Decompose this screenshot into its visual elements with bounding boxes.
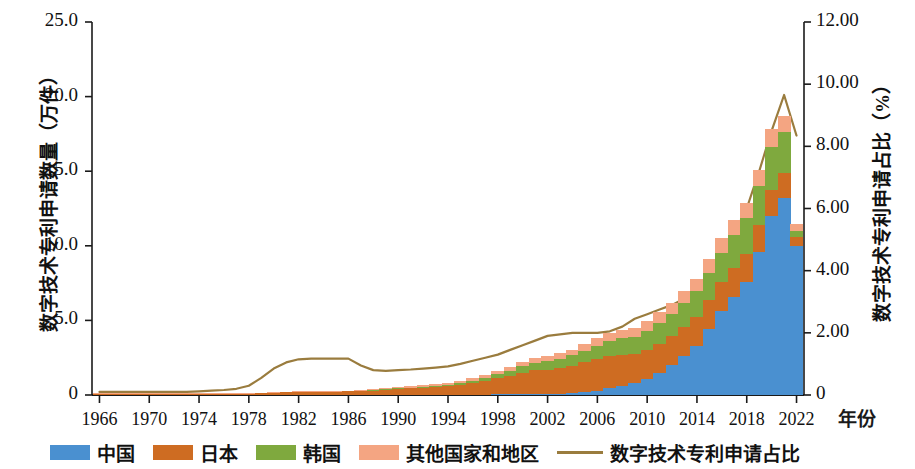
bar-segment-others (653, 312, 666, 322)
bar-segment-japan (379, 390, 392, 395)
bar-segment-japan (118, 394, 131, 395)
y-axis-right-tick-label: 2.00 (816, 320, 886, 342)
bar-segment-japan (653, 344, 666, 373)
bar-segment-korea (616, 338, 629, 354)
bar-segment-japan (193, 394, 206, 395)
stacked-bar (143, 393, 156, 395)
stacked-bar (578, 344, 591, 395)
stacked-bar (703, 259, 716, 395)
legend-item[interactable]: 日本 (153, 439, 238, 466)
legend-item[interactable]: 韩国 (256, 439, 341, 466)
legend-item[interactable]: 中国 (50, 439, 135, 466)
bar-segment-china (616, 386, 629, 395)
stacked-bar (93, 393, 106, 395)
bar-segment-japan (155, 394, 168, 395)
stacked-bar (753, 170, 766, 395)
stacked-bar (217, 393, 230, 395)
y-axis-left-tick-label: 20.0 (20, 84, 78, 106)
bar-segment-japan (715, 282, 728, 311)
bar-segment-japan (442, 386, 455, 395)
bar-segment-china (666, 365, 679, 395)
bar-segment-others (778, 116, 791, 132)
stacked-bar (541, 356, 554, 395)
legend-label: 中国 (97, 439, 135, 466)
legend-label: 数字技术专利申请占比 (610, 439, 800, 466)
legend-item[interactable]: 其他国家和地区 (359, 439, 539, 466)
bar-segment-japan (105, 394, 118, 395)
bar-segment-others (740, 203, 753, 219)
bar-segment-japan (392, 389, 405, 395)
bar-segment-korea (678, 303, 691, 327)
bar-segment-china (591, 391, 604, 395)
bar-segment-japan (678, 327, 691, 356)
stacked-bar (466, 378, 479, 395)
bar-segment-china (641, 379, 654, 395)
bar-segment-japan (666, 336, 679, 365)
bar-segment-japan (690, 317, 703, 346)
y-axis-right-tick-label: 4.00 (816, 258, 886, 280)
bar-segment-korea (666, 314, 679, 336)
bar-segment-japan (778, 173, 791, 198)
bar-segment-others (703, 259, 716, 272)
bar-segment-korea (578, 351, 591, 363)
digital-patent-chart: 数字技术专利申请数量（万件） 数字技术专利申请占比（%） 05.010.015.… (0, 0, 915, 469)
stacked-bar (392, 387, 405, 395)
legend-label: 日本 (200, 439, 238, 466)
plot-area (92, 22, 804, 395)
stacked-bar (242, 393, 255, 395)
stacked-bar (765, 129, 778, 395)
bar-segment-japan (143, 394, 156, 395)
stacked-bar (155, 393, 168, 395)
legend-color-swatch (359, 445, 399, 460)
y-axis-left-tick-label: 15.0 (20, 158, 78, 180)
stacked-bar (616, 330, 629, 395)
bar-segment-japan (242, 394, 255, 395)
bar-segment-korea (753, 186, 766, 225)
bar-segment-others (753, 170, 766, 186)
stacked-bar (653, 312, 666, 395)
bar-segment-japan (429, 387, 442, 395)
legend-item[interactable]: 数字技术专利申请占比 (557, 439, 800, 466)
stacked-bar (180, 393, 193, 395)
bar-segment-china (541, 394, 554, 395)
bar-segment-china (491, 394, 504, 395)
y-axis-right-tick-label: 0 (816, 382, 886, 404)
bar-segment-japan (454, 385, 467, 395)
bar-segment-japan (180, 394, 193, 395)
stacked-bar (379, 388, 392, 395)
bar-segment-japan (790, 237, 803, 246)
bar-segment-japan (292, 392, 305, 395)
bar-segment-japan (753, 225, 766, 252)
bar-segment-japan (354, 391, 367, 395)
stacked-bar (317, 391, 330, 395)
bar-segment-korea (554, 359, 567, 368)
stacked-bar (790, 224, 803, 395)
bar-segment-japan (479, 381, 492, 395)
y-axis-right-tick-label: 8.00 (816, 133, 886, 155)
stacked-bar (491, 371, 504, 396)
bar-segment-japan (342, 391, 355, 395)
stacked-bar (230, 393, 243, 395)
bar-segment-korea (603, 341, 616, 356)
bar-segment-japan (491, 378, 504, 394)
stacked-bar (566, 350, 579, 395)
bar-segment-others (616, 330, 629, 339)
y-axis-left-tick-label: 5.0 (20, 307, 78, 329)
bar-segment-korea (765, 147, 778, 190)
stacked-bar (603, 333, 616, 395)
bar-segment-japan (217, 394, 230, 395)
bar-segment-china (765, 216, 778, 395)
bar-segment-korea (703, 273, 716, 301)
stacked-bar (778, 116, 791, 395)
bar-segment-japan (641, 350, 654, 379)
y-axis-right-tick-label: 12.00 (816, 9, 886, 31)
stacked-bar (442, 383, 455, 395)
stacked-bar (641, 321, 654, 395)
bar-segment-china (628, 383, 641, 395)
stacked-bar (130, 393, 143, 395)
bar-segment-others (765, 129, 778, 146)
bar-segment-korea (778, 132, 791, 172)
bar-segment-japan (516, 373, 529, 395)
x-axis-tick-label: 2022 (767, 409, 827, 430)
bar-segment-others (591, 338, 604, 345)
